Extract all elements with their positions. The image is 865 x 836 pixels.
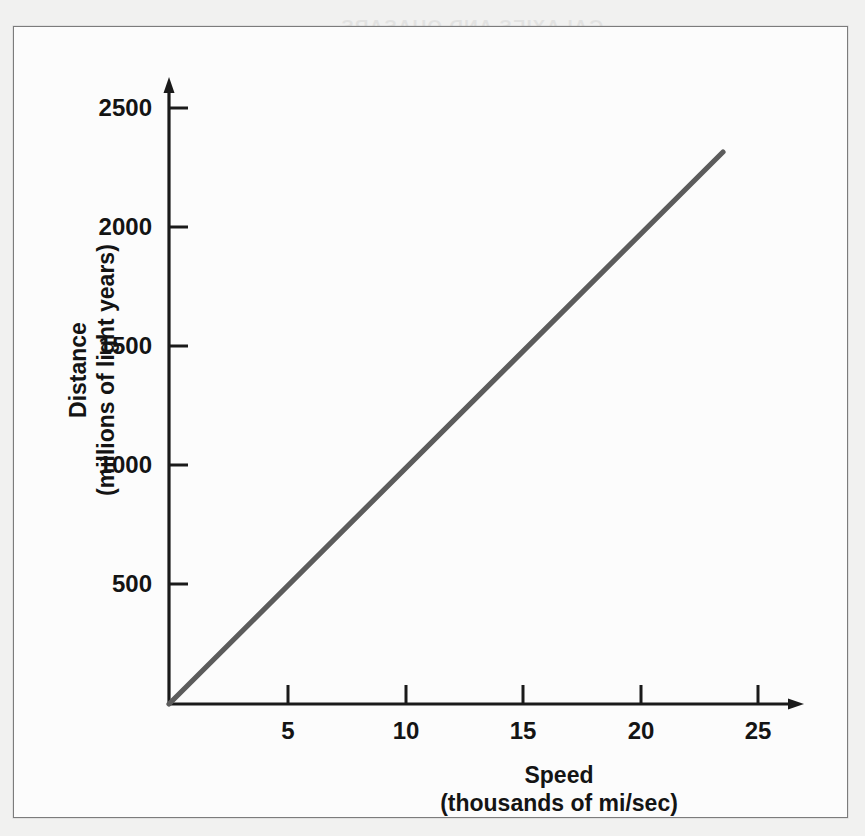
y-tick-label-500: 500	[14, 570, 152, 598]
chart-canvas	[14, 27, 848, 818]
x-tick-label-5: 5	[281, 717, 294, 745]
plot-area: 2500 2000 1500 1000 500 5 10 15 20 25 Sp…	[14, 27, 848, 818]
x-tick-label-25: 25	[745, 717, 772, 745]
x-axis-arrow-icon	[788, 699, 804, 710]
scanned-page: GALAXIES AND QUASARS receding galaxy fro…	[0, 0, 865, 836]
x-tick-label-15: 15	[510, 717, 537, 745]
x-tick-label-10: 10	[393, 717, 420, 745]
y-axis-title: Distance (millions of light years)	[64, 220, 120, 520]
x-tick-label-20: 20	[628, 717, 655, 745]
y-axis-title-main: Distance	[64, 220, 92, 520]
x-axis-title-units: (thousands of mi/sec)	[409, 789, 709, 817]
y-axis	[164, 77, 175, 704]
y-tick-marks	[169, 108, 188, 584]
data-series-hubble-relation	[169, 152, 723, 704]
figure-frame: 2500 2000 1500 1000 500 5 10 15 20 25 Sp…	[13, 26, 848, 818]
x-axis-title-main: Speed	[409, 761, 709, 789]
y-axis-title-units: (millions of light years)	[92, 220, 120, 520]
y-tick-label-2500: 2500	[14, 94, 152, 122]
x-tick-marks	[288, 685, 758, 704]
x-axis	[169, 699, 804, 710]
x-axis-title: Speed (thousands of mi/sec)	[409, 761, 709, 817]
y-axis-arrow-icon	[164, 77, 175, 93]
